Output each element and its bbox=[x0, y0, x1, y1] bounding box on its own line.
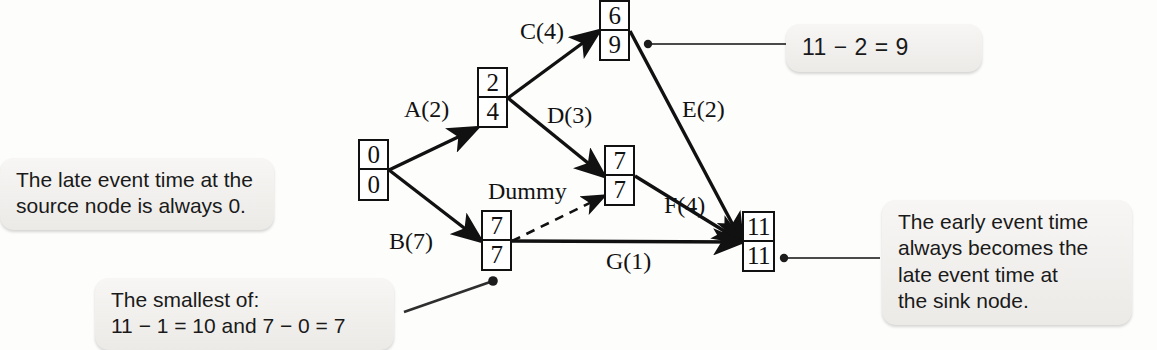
callout-source-late-time-line-2: source node is always 0. bbox=[16, 193, 258, 219]
activity-label-G: G(1) bbox=[606, 248, 651, 275]
activity-label-B: B(7) bbox=[389, 228, 433, 255]
node-3-late-time: 9 bbox=[601, 31, 628, 60]
node-2-early-time: 2 bbox=[479, 69, 506, 98]
callout-smallest-of: The smallest of: 11 − 1 = 10 and 7 − 0 =… bbox=[95, 278, 394, 350]
node-source: 0 0 bbox=[358, 139, 389, 201]
leader-to-node5 bbox=[404, 276, 498, 312]
leader-to-node3 bbox=[644, 40, 786, 48]
callout-smallest-of-line-1: The smallest of: bbox=[111, 287, 378, 313]
activity-label-D: D(3) bbox=[547, 102, 592, 129]
callout-sink-event-time-line-3: late event time at bbox=[898, 262, 1116, 288]
activity-label-F: F(4) bbox=[664, 192, 705, 219]
callout-late-time-calc-line-1: 11 − 2 = 9 bbox=[802, 33, 966, 62]
node-4-late-time: 7 bbox=[606, 176, 633, 205]
node-3: 6 9 bbox=[599, 0, 630, 61]
leader-to-sink bbox=[780, 254, 880, 262]
node-5-early-time: 7 bbox=[483, 212, 510, 241]
callout-source-late-time: The late event time at the source node i… bbox=[0, 158, 274, 230]
node-sink-late-time: 11 bbox=[744, 242, 773, 271]
edge-A bbox=[389, 128, 477, 170]
edge-G bbox=[512, 241, 742, 242]
node-4: 7 7 bbox=[604, 145, 635, 206]
callout-sink-event-time-line-4: the sink node. bbox=[898, 288, 1116, 314]
callout-sink-event-time: The early event time always becomes the … bbox=[882, 200, 1132, 325]
activity-label-E: E(2) bbox=[682, 96, 725, 123]
node-source-early-time: 0 bbox=[360, 141, 387, 170]
node-5-late-time: 7 bbox=[483, 241, 510, 270]
node-3-early-time: 6 bbox=[601, 2, 628, 31]
callout-smallest-of-line-2: 11 − 1 = 10 and 7 − 0 = 7 bbox=[111, 313, 378, 339]
node-4-early-time: 7 bbox=[606, 147, 633, 176]
callout-sink-event-time-line-1: The early event time bbox=[898, 209, 1116, 235]
node-2-late-time: 4 bbox=[479, 98, 506, 127]
node-5: 7 7 bbox=[481, 210, 512, 271]
callout-sink-event-time-line-2: always becomes the bbox=[898, 235, 1116, 261]
network-diagram-figure: 0 0 2 4 6 9 7 7 7 7 11 11 A(2) C(4) D(3)… bbox=[0, 0, 1157, 350]
node-source-late-time: 0 bbox=[360, 170, 387, 199]
node-sink: 11 11 bbox=[742, 211, 775, 272]
activity-label-A: A(2) bbox=[404, 96, 449, 123]
node-sink-early-time: 11 bbox=[744, 213, 773, 242]
activity-label-C: C(4) bbox=[520, 18, 564, 45]
callout-source-late-time-line-1: The late event time at the bbox=[16, 167, 258, 193]
node-2: 2 4 bbox=[477, 67, 508, 128]
activity-label-dummy: Dummy bbox=[488, 178, 567, 205]
callout-late-time-calc: 11 − 2 = 9 bbox=[786, 24, 982, 72]
